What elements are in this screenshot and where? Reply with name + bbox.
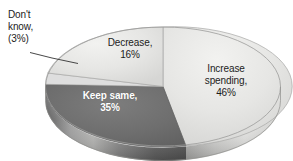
slice-label-dont-know-line1: Don't	[8, 9, 33, 21]
slice-label-keep-same: Keep same, 35%	[64, 90, 156, 114]
slice-label-dont-know-line2: know,	[8, 21, 33, 33]
slice-label-keep-same-line1: Keep same,	[64, 90, 156, 102]
slice-label-decrease-line2: 16%	[93, 49, 167, 61]
slice-label-decrease-line1: Decrease,	[93, 37, 167, 49]
slice-label-keep-same-line2: 35%	[64, 102, 156, 114]
slice-label-decrease: Decrease, 16%	[93, 37, 167, 61]
slice-label-dont-know: Don't know, (3%)	[8, 9, 33, 45]
pie-chart: Don't know, (3%) Decrease, 16% Increase …	[0, 0, 293, 161]
slice-label-increase-line2: spending,	[187, 75, 265, 87]
slice-label-increase-line3: 46%	[187, 87, 265, 99]
slice-label-increase-line1: Increase	[187, 63, 265, 75]
slice-label-dont-know-line3: (3%)	[8, 33, 33, 45]
slice-label-increase-spending: Increase spending, 46%	[187, 63, 265, 99]
